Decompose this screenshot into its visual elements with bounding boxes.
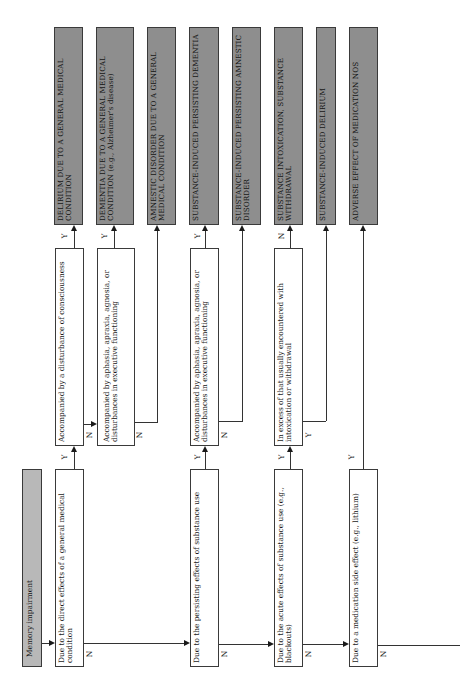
connector-q4-yes — [363, 231, 364, 469]
result-label: SUBSTANCE-INDUCED DELIRIUM — [319, 31, 327, 221]
no-label: N — [380, 650, 388, 658]
connector-s4-yes-h — [303, 421, 326, 422]
arrow-up-icon — [71, 225, 77, 231]
no-label: N — [221, 650, 229, 658]
no-label: N — [221, 431, 229, 439]
subq-label: Accompanied by aphasia, apraxia, agnosia… — [193, 252, 209, 442]
connector-q3-yes — [290, 452, 291, 469]
arrow-up-icon — [287, 446, 293, 452]
arrow-up-icon — [71, 446, 77, 452]
result-substance-persisting-amnestic: SUBSTANCE-INDUCED PERSISTING AMNESTIC DI… — [232, 27, 261, 225]
result-substance-intoxication-withdrawal: SUBSTANCE INTOXICATION, SUBSTANCE WITHDR… — [274, 27, 303, 225]
connector-s3-no-h — [219, 421, 242, 422]
result-label: SUBSTANCE-INDUCED PERSISTING DEMENTIA — [192, 31, 200, 221]
arrow-up-icon — [287, 225, 293, 231]
arrow-up-icon — [111, 225, 117, 231]
arrow-up-icon — [154, 225, 160, 231]
no-label: N — [136, 431, 144, 439]
mainq-medication: Due to a medication side effect (e.g., l… — [349, 469, 378, 667]
connector-s2-yes — [114, 231, 115, 248]
connector-q2-yes — [205, 452, 206, 469]
subq-excess-intoxication: In excess of that usually encountered wi… — [274, 248, 303, 446]
subq-label: Accompanied by aphasia, apraxia, agnosia… — [103, 252, 119, 442]
result-substance-persisting-dementia: SUBSTANCE-INDUCED PERSISTING DEMENTIA — [189, 27, 219, 225]
connector-s3-yes — [205, 231, 206, 248]
arrow-right-icon — [184, 640, 190, 646]
arrow-right-icon — [268, 641, 274, 647]
subq-aphasia-substance: Accompanied by aphasia, apraxia, agnosia… — [190, 248, 219, 446]
subq-label: In excess of that usually encountered wi… — [277, 252, 293, 442]
mainq-general-medical: Due to the direct effects of a general m… — [55, 469, 84, 667]
subq-aphasia-gmc: Accompanied by aphasia, apraxia, agnosia… — [97, 248, 135, 446]
connector-s1-yes — [74, 231, 75, 248]
result-substance-delirium: SUBSTANCE-INDUCED DELIRIUM — [316, 27, 336, 225]
arrow-up-icon — [360, 225, 366, 231]
connector-s3-no-v — [242, 231, 243, 422]
mainq-acute-substance: Due to the acute effects of substance us… — [274, 469, 303, 667]
result-label: SUBSTANCE INTOXICATION, SUBSTANCE WITHDR… — [277, 31, 293, 221]
connector-q2-to-q3 — [219, 644, 269, 645]
result-dementia-gmc: DEMENTIA DUE TO A GENERAL MEDICAL CONDIT… — [96, 27, 134, 225]
connector-q3-to-q4 — [303, 644, 344, 645]
result-delirium-gmc: DELIRIUM DUE TO A GENERAL MEDICAL CONDIT… — [54, 27, 83, 225]
connector-s2-no-h — [135, 422, 157, 423]
connector-q4-exit — [378, 645, 460, 646]
arrow-up-icon — [202, 225, 208, 231]
yes-label: Y — [101, 232, 109, 240]
mainq-label: Due to the direct effects of a general m… — [58, 473, 74, 663]
result-amnestic-gmc: AMNESTIC DISORDER DUE TO A GENERAL MEDIC… — [147, 27, 176, 225]
mainq-persisting-substance: Due to the persisting effects of substan… — [190, 469, 219, 667]
no-label: N — [278, 232, 286, 240]
yes-label: Y — [278, 453, 286, 461]
connector-s4-no — [290, 231, 291, 248]
subq-label: Accompanied by a disturbance of consciou… — [58, 252, 66, 442]
subq-disturbance-consciousness: Accompanied by a disturbance of consciou… — [55, 248, 84, 446]
yes-label: Y — [348, 453, 356, 461]
connector-s2-no-v — [157, 231, 158, 423]
connector-q1-to-q2 — [84, 643, 185, 644]
start-label: Memory impairment — [26, 473, 34, 657]
no-label: N — [86, 431, 94, 439]
yes-label: Y — [61, 232, 69, 240]
mainq-label: Due to the persisting effects of substan… — [193, 473, 201, 663]
arrow-right-icon — [49, 640, 55, 646]
arrow-up-icon — [323, 225, 329, 231]
mainq-label: Due to a medication side effect (e.g., l… — [352, 473, 360, 663]
no-label: N — [86, 650, 94, 658]
result-label: AMNESTIC DISORDER DUE TO A GENERAL MEDIC… — [150, 31, 166, 221]
result-note: (e.g., Alzheimer's disease) — [106, 73, 115, 171]
arrow-right-icon — [91, 421, 97, 427]
yes-label: Y — [305, 431, 313, 439]
no-label: N — [305, 650, 313, 658]
result-label: DEMENTIA DUE TO A GENERAL MEDICAL CONDIT… — [99, 31, 115, 221]
arrow-up-icon — [202, 446, 208, 452]
arrow-up-icon — [239, 225, 245, 231]
yes-label: Y — [194, 232, 202, 240]
connector-q1-yes — [74, 452, 75, 469]
connector-s4-yes-v — [326, 231, 327, 421]
yes-label: Y — [61, 453, 69, 461]
yes-label: Y — [194, 453, 202, 461]
arrow-right-icon — [343, 641, 349, 647]
mainq-label: Due to the acute effects of substance us… — [277, 473, 293, 663]
result-label: ADVERSE EFFECT OF MEDICATION NOS — [352, 31, 360, 221]
result-adverse-medication: ADVERSE EFFECT OF MEDICATION NOS — [349, 27, 378, 225]
result-label: SUBSTANCE-INDUCED PERSISTING AMNESTIC DI… — [235, 31, 251, 221]
result-label: DELIRIUM DUE TO A GENERAL MEDICAL CONDIT… — [57, 31, 73, 221]
start-memory-impairment: Memory impairment — [22, 469, 42, 667]
